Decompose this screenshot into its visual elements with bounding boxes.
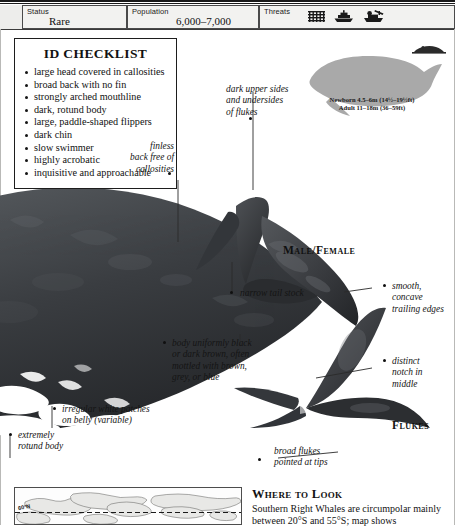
annotation-smooth-trailing-edges: smooth, concave trailing edges xyxy=(392,281,454,315)
annotation-finless-back: finless back free of callosities xyxy=(106,141,174,175)
caption-male-female: Male/Female xyxy=(283,244,355,256)
annotation-dark-upper-sides: dark upper sides and undersides of fluke… xyxy=(226,84,318,118)
list-item: dark chin xyxy=(23,129,168,142)
world-map-graphic xyxy=(15,488,241,524)
net-entanglement-icon xyxy=(308,10,325,23)
population-cell: Population 6,000–7,000 xyxy=(127,5,259,29)
threat-icon-group xyxy=(308,9,384,23)
top-rule-secondary xyxy=(0,3,455,4)
header-bar: Status Rare Population 6,000–7,000 Threa… xyxy=(0,5,455,30)
list-item: large, paddle-shaped flippers xyxy=(23,116,168,129)
status-value: Rare xyxy=(49,15,70,27)
distribution-map xyxy=(14,487,242,525)
annotation-narrow-tail-stock: narrow tail stock xyxy=(240,288,350,299)
threats-label: Threats xyxy=(264,7,290,16)
where-to-look-text: Southern Right Whales are circumpolar ma… xyxy=(252,503,452,527)
population-value: 6,000–7,000 xyxy=(176,15,231,27)
where-to-look-section: Where to Look Southern Right Whales are … xyxy=(252,487,452,527)
list-item: large head covered in callosities xyxy=(23,66,168,79)
human-scale-figure xyxy=(412,46,446,54)
population-label: Population xyxy=(132,7,168,16)
annotation-body-uniform-colour: body uniformly black or dark brown, ofte… xyxy=(172,338,284,384)
status-label: Status xyxy=(27,7,49,16)
annotation-white-patches: irregular white patches on belly (variab… xyxy=(62,404,182,427)
status-cell: Status Rare xyxy=(22,5,127,29)
where-to-look-title: Where to Look xyxy=(252,487,452,502)
ship-strike-icon xyxy=(334,10,354,23)
list-item: broad back with no fin xyxy=(23,79,168,92)
annotation-distinct-notch: distinct notch in middle xyxy=(392,356,450,390)
list-item: strongly arched mouthline xyxy=(23,91,168,104)
size-adult: Adult 11–18m (36–59ft) xyxy=(296,104,448,112)
annotation-rotund-body: extremely rotund body xyxy=(18,430,94,453)
size-newborn: Newborn 4.5–6m (14½–19½ft) xyxy=(296,96,448,104)
size-comparison-text: Newborn 4.5–6m (14½–19½ft) Adult 11–18m … xyxy=(296,96,448,113)
threats-cell: Threats xyxy=(259,5,455,29)
annotation-broad-flukes: broad flukes pointed at tips xyxy=(274,446,370,469)
id-checklist-title: ID CHECKLIST xyxy=(23,46,168,62)
caption-flukes: Flukes xyxy=(392,419,429,431)
whaling-boat-icon xyxy=(363,9,384,23)
list-item: dark, rotund body xyxy=(23,104,168,117)
top-rule xyxy=(0,0,455,2)
